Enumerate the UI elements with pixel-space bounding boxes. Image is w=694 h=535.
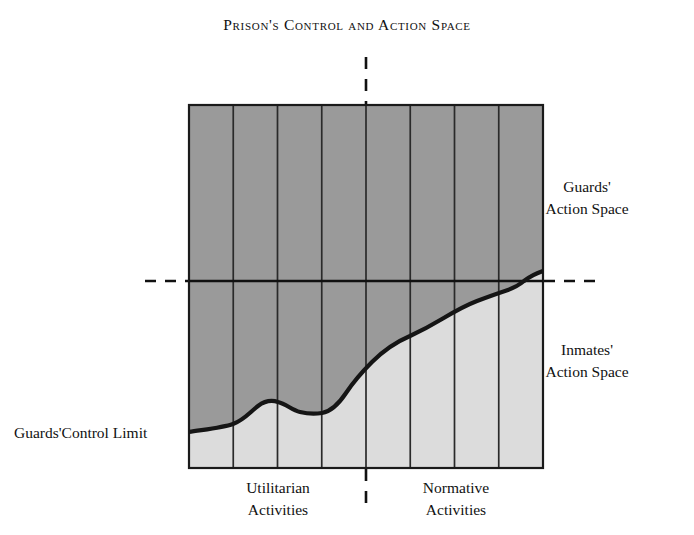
prison-control-action-space-figure: Prison's Control and Action Space — [0, 0, 694, 535]
utilitarian-line2: Activities — [246, 499, 310, 521]
plot-area — [0, 0, 694, 535]
inmates-action-space-line1: Inmates' — [545, 339, 628, 361]
utilitarian-line1: Utilitarian — [246, 477, 310, 499]
guards-action-space-label: Guards' Action Space — [545, 176, 628, 220]
guards-control-limit-label: Guards'Control Limit — [14, 422, 147, 444]
normative-line1: Normative — [423, 477, 489, 499]
utilitarian-activities-label: Utilitarian Activities — [246, 477, 310, 521]
guards-action-space-line2: Action Space — [545, 198, 628, 220]
normative-activities-label: Normative Activities — [423, 477, 489, 521]
inmates-action-space-label: Inmates' Action Space — [545, 339, 628, 383]
inmates-action-space-line2: Action Space — [545, 361, 628, 383]
normative-line2: Activities — [423, 499, 489, 521]
guards-action-space-line1: Guards' — [545, 176, 628, 198]
